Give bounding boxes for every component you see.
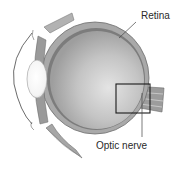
eye-diagram: Retina Optic nerve <box>0 0 182 172</box>
retina-label: Retina <box>141 11 170 21</box>
vitreous-body <box>50 31 144 129</box>
optic-nerve-label: Optic nerve <box>96 141 147 151</box>
eye-illustration <box>0 0 182 172</box>
lens <box>27 60 47 98</box>
